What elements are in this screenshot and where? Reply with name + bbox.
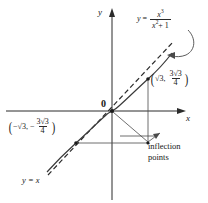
equation-label: y = x3 x2+ 1 — [137, 9, 171, 29]
point-right-y-numerator: 3√3 — [167, 70, 183, 78]
asymptote-label: y = x — [22, 176, 40, 185]
point-left-comma: , — [26, 123, 28, 131]
equation-numerator: x3 — [155, 9, 165, 19]
point-left-close-paren: ) — [52, 121, 56, 133]
point-left-x: −√3 — [13, 123, 26, 131]
inflection-points-annotation: inflection points — [148, 141, 181, 163]
numerator-exponent: 3 — [161, 8, 164, 14]
math-figure: y x 0 y = x3 x2+ 1 y = x ( √3 , 3√3 4 ) … — [0, 0, 208, 203]
point-right-open-paren: ( — [151, 73, 155, 85]
denominator-tail: + 1 — [158, 20, 169, 29]
point-label-left: ( −√3 , − 3√3 4 ) — [8, 118, 56, 135]
x-axis — [6, 108, 186, 114]
point-right-y-fraction: 3√3 4 — [167, 70, 183, 87]
point-right-close-paren: ) — [185, 73, 189, 85]
inflection-annotation-line-2: points — [148, 152, 181, 163]
inflection-annotation-line-1: inflection — [148, 141, 181, 152]
origin-label: 0 — [101, 99, 106, 109]
equation-fraction: x3 x2+ 1 — [150, 9, 171, 29]
point-left-y-numerator: 3√3 — [34, 118, 50, 126]
y-axis-label: y — [98, 8, 102, 17]
point-right-comma: , — [163, 75, 165, 83]
point-right-x: √3 — [155, 75, 163, 83]
equation-equals: = — [143, 15, 148, 23]
x-axis-label: x — [186, 114, 190, 123]
point-label-right: ( √3 , 3√3 4 ) — [150, 70, 189, 87]
point-left-open-paren: ( — [9, 121, 13, 133]
equation-denominator: x2+ 1 — [150, 19, 171, 30]
point-right-y-denominator: 4 — [172, 78, 180, 87]
point-left-y-denominator: 4 — [39, 126, 47, 135]
point-left-y-fraction: 3√3 4 — [34, 118, 50, 135]
equation-lhs: y — [137, 15, 141, 23]
